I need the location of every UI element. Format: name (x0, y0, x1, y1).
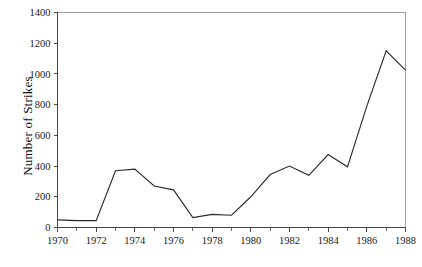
y-tick-label: 800 (35, 99, 51, 110)
x-tick-label: 1988 (395, 235, 416, 246)
plot-frame (58, 13, 406, 228)
data-series-group (58, 51, 406, 221)
x-tick-label: 1976 (163, 235, 184, 246)
y-tick-label: 400 (35, 161, 51, 172)
x-tick-label: 1984 (318, 235, 340, 246)
y-tick-label: 1400 (30, 7, 51, 18)
x-tick-label: 1970 (47, 235, 68, 246)
y-tick-label: 0 (45, 222, 50, 233)
x-tick-label: 1978 (202, 235, 223, 246)
x-tick-label: 1972 (86, 235, 107, 246)
y-tick-label: 600 (35, 130, 51, 141)
x-tick-label: 1982 (279, 235, 300, 246)
series-line-number-of-strikes (58, 51, 406, 221)
line-chart: Number of Strikes 0200400600800100012001… (0, 0, 422, 267)
plot-canvas: 0200400600800100012001400 19701972197419… (0, 0, 422, 267)
y-tick-label: 200 (35, 191, 51, 202)
y-axis-title: Number of Strikes (20, 46, 36, 206)
x-tick-label: 1974 (124, 235, 146, 246)
x-axis: 1970197219741976197819801982198419861988 (47, 228, 416, 246)
x-tick-label: 1980 (240, 235, 261, 246)
x-tick-label: 1986 (356, 235, 377, 246)
